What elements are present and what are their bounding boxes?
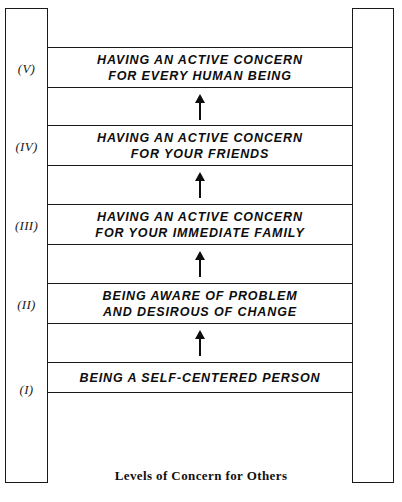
rung-level-3: HAVING AN ACTIVE CONCERN FOR YOUR IMMEDI… bbox=[47, 204, 353, 245]
level-label-1: (I) bbox=[5, 382, 48, 398]
ladder-diagram: HAVING AN ACTIVE CONCERN FOR EVERY HUMAN… bbox=[0, 0, 402, 502]
level-label-2: (II) bbox=[5, 297, 48, 313]
ladder-rail-right bbox=[352, 8, 394, 483]
gap-3-to-4 bbox=[47, 166, 353, 204]
rung-level-5-text: HAVING AN ACTIVE CONCERN FOR EVERY HUMAN… bbox=[91, 52, 309, 84]
rung-level-2-text: BEING AWARE OF PROBLEM AND DESIROUS OF C… bbox=[96, 288, 303, 320]
arrow-up-icon bbox=[194, 94, 206, 120]
ladder-rail-left bbox=[5, 8, 48, 483]
rung-level-4: HAVING AN ACTIVE CONCERN FOR YOUR FRIEND… bbox=[47, 125, 353, 166]
arrow-up-icon bbox=[194, 330, 206, 356]
arrow-up-icon bbox=[194, 172, 206, 198]
ladder-rungs: HAVING AN ACTIVE CONCERN FOR EVERY HUMAN… bbox=[47, 47, 353, 465]
level-label-5: (V) bbox=[5, 61, 48, 77]
gap-1-to-2 bbox=[47, 324, 353, 362]
rung-level-5: HAVING AN ACTIVE CONCERN FOR EVERY HUMAN… bbox=[47, 47, 353, 88]
rung-level-2: BEING AWARE OF PROBLEM AND DESIROUS OF C… bbox=[47, 283, 353, 324]
level-label-4: (IV) bbox=[5, 139, 48, 155]
gap-2-to-3 bbox=[47, 245, 353, 283]
rung-level-1-text: BEING A SELF-CENTERED PERSON bbox=[74, 370, 327, 386]
rung-level-4-text: HAVING AN ACTIVE CONCERN FOR YOUR FRIEND… bbox=[91, 130, 309, 162]
rung-level-1: BEING A SELF-CENTERED PERSON bbox=[47, 362, 353, 393]
ladder-base-area bbox=[47, 393, 353, 465]
rung-level-3-text: HAVING AN ACTIVE CONCERN FOR YOUR IMMEDI… bbox=[89, 209, 310, 241]
figure-caption: Levels of Concern for Others bbox=[0, 468, 402, 484]
gap-4-to-5 bbox=[47, 88, 353, 125]
level-label-3: (III) bbox=[5, 218, 48, 234]
arrow-up-icon bbox=[194, 251, 206, 277]
